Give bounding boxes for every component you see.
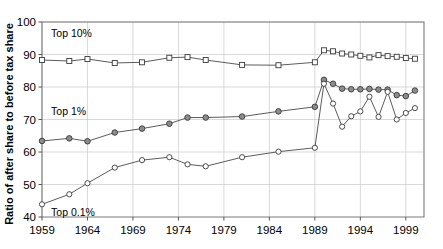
data-point-marker <box>40 58 45 63</box>
data-point-marker <box>203 164 208 169</box>
chart-container: 195919641969197419791984198919941999 405… <box>0 0 443 249</box>
data-point-marker <box>85 138 91 144</box>
y-tick-label: 60 <box>23 146 36 158</box>
gridlines-group <box>42 22 424 217</box>
data-point-marker <box>403 110 408 115</box>
data-point-marker <box>349 114 354 119</box>
data-point-marker <box>276 149 281 154</box>
data-point-marker <box>367 55 372 60</box>
data-point-marker <box>403 56 408 61</box>
data-point-marker <box>276 63 281 68</box>
data-point-marker <box>167 55 172 60</box>
data-point-marker <box>348 86 354 92</box>
series-top-0-1 <box>39 81 417 207</box>
data-point-marker <box>321 48 326 53</box>
data-point-marker <box>340 51 345 56</box>
data-series-group <box>39 48 418 207</box>
y-tick-label: 100 <box>17 16 36 28</box>
data-point-marker <box>340 124 345 129</box>
data-point-marker <box>331 49 336 54</box>
x-tick-label: 1994 <box>348 224 374 236</box>
x-tick-label: 1959 <box>29 224 55 236</box>
y-axis-title: Ratio of after share to before tax share <box>3 23 15 225</box>
x-tick-label: 1964 <box>75 224 101 236</box>
data-point-marker <box>367 94 372 99</box>
x-tick-label: 1969 <box>120 224 146 236</box>
x-axis-tick-labels: 195919641969197419791984198919941999 <box>29 224 418 236</box>
data-point-marker <box>412 106 417 111</box>
series-label-top-0-1: Top 0.1% <box>51 206 95 218</box>
data-point-marker <box>394 54 399 59</box>
data-point-marker <box>112 60 117 65</box>
data-point-marker <box>330 101 335 106</box>
data-point-marker <box>385 89 390 94</box>
data-point-marker <box>85 181 90 186</box>
data-point-marker <box>67 192 72 197</box>
data-point-marker <box>394 117 399 122</box>
data-point-marker <box>376 87 382 93</box>
data-point-marker <box>66 136 72 142</box>
data-point-marker <box>112 130 118 136</box>
data-point-marker <box>39 202 44 207</box>
data-point-marker <box>330 81 336 87</box>
data-point-marker <box>358 109 363 114</box>
data-point-marker <box>167 155 172 160</box>
data-point-marker <box>385 54 390 59</box>
data-point-marker <box>312 104 318 110</box>
series-line <box>42 84 415 205</box>
data-point-marker <box>167 121 173 127</box>
y-tick-label: 90 <box>23 49 36 61</box>
data-point-marker <box>376 114 381 119</box>
data-point-marker <box>139 158 144 163</box>
y-axis-tick-labels: 405060708090100 <box>17 16 36 223</box>
y-tick-label: 50 <box>23 179 36 191</box>
x-tick-label: 1999 <box>393 224 419 236</box>
series-annotations-group: Top 10%Top 1%Top 0.1% <box>51 27 95 218</box>
x-tick-label: 1989 <box>302 224 328 236</box>
data-point-marker <box>240 62 245 67</box>
data-point-marker <box>349 52 354 57</box>
data-point-marker <box>321 81 326 86</box>
data-point-marker <box>376 53 381 58</box>
data-point-marker <box>276 109 282 115</box>
y-tick-label: 70 <box>23 114 36 126</box>
data-point-marker <box>39 138 45 144</box>
data-point-marker <box>367 86 373 92</box>
series-label-top-10: Top 10% <box>51 27 92 39</box>
data-point-marker <box>67 59 72 64</box>
series-top-10 <box>40 48 418 68</box>
data-point-marker <box>85 57 90 62</box>
data-point-marker <box>358 86 364 92</box>
data-point-marker <box>339 86 345 92</box>
data-point-marker <box>403 93 409 99</box>
data-point-marker <box>412 88 418 94</box>
data-point-marker <box>312 60 317 65</box>
series-label-top-1: Top 1% <box>51 105 86 117</box>
data-point-marker <box>112 165 117 170</box>
data-point-marker <box>203 115 209 121</box>
x-tick-label: 1979 <box>211 224 237 236</box>
data-point-marker <box>185 115 191 121</box>
data-point-marker <box>140 60 145 65</box>
x-tick-label: 1984 <box>257 224 283 236</box>
data-point-marker <box>312 145 317 150</box>
ratio-after-before-tax-share-line-chart: 195919641969197419791984198919941999 405… <box>0 0 443 249</box>
y-tick-label: 80 <box>23 81 36 93</box>
data-point-marker <box>139 126 145 132</box>
data-point-marker <box>185 55 190 60</box>
data-point-marker <box>203 58 208 63</box>
data-point-marker <box>185 162 190 167</box>
data-point-marker <box>239 155 244 160</box>
data-point-marker <box>412 56 417 61</box>
data-point-marker <box>358 53 363 58</box>
data-point-marker <box>239 114 245 120</box>
y-tick-label: 40 <box>23 211 36 223</box>
x-tick-label: 1974 <box>166 224 192 236</box>
data-point-marker <box>394 92 400 98</box>
